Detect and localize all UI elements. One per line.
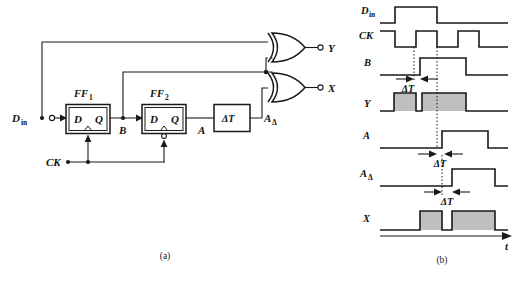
ff1-label-sub: 1 — [89, 93, 93, 102]
xor-gate-y-body — [272, 33, 305, 62]
node-a-label: A — [197, 124, 205, 136]
wave-label-b: B — [363, 57, 371, 68]
wave-label-adelta: A — [359, 168, 367, 179]
ff1-label: FF — [73, 88, 88, 99]
waveform-adelta — [380, 169, 508, 186]
ff2-clock-inverter-bubble-icon — [162, 134, 167, 139]
time-axis-label: t — [505, 241, 509, 252]
node-adelta-label: A — [263, 112, 271, 124]
waveform-x-shade-2 — [452, 211, 495, 230]
panel-b-caption: (b) — [436, 255, 447, 266]
waveform-din — [380, 7, 508, 23]
wave-label-din: D — [360, 5, 369, 16]
delta-marker-2: ΔT — [418, 151, 463, 169]
delta-marker-3-arrow-left — [434, 189, 442, 196]
delta-marker-1-label: ΔT — [401, 83, 415, 94]
xor-gate-y — [268, 33, 305, 62]
ff2-d-pin-label: D — [149, 113, 158, 125]
arrow-ck-ff2 — [161, 140, 168, 148]
delta-marker-1-arrow-left — [406, 76, 414, 83]
ff2-label-sub: 2 — [165, 93, 169, 102]
delta-marker-3: ΔT — [424, 189, 470, 207]
figure-svg: D Q FF 1 B D Q FF 2 — [0, 0, 526, 281]
xor-gate-x — [268, 73, 305, 102]
wave-label-a: A — [362, 130, 370, 141]
din-label-sub: in — [21, 118, 28, 127]
wave-label-din-sub: in — [369, 10, 376, 19]
wave-label-ck: CK — [359, 30, 374, 41]
wave-label-x: X — [362, 213, 371, 224]
waveform-a — [380, 131, 508, 148]
waveform-y-shade-1 — [394, 93, 416, 111]
wave-label-y: Y — [364, 98, 372, 109]
wave-label-adelta-sub: Δ — [368, 173, 373, 182]
figure-root: D Q FF 1 B D Q FF 2 — [0, 0, 526, 281]
time-axis-arrow-icon — [502, 232, 512, 240]
node-b-label: B — [118, 124, 126, 136]
waveform-y-shade-2 — [422, 93, 466, 111]
ff1-d-pin-label: D — [73, 113, 82, 125]
din-terminal-icon — [49, 115, 54, 120]
waveform-ck — [380, 31, 508, 47]
ff2-q-pin-label: Q — [171, 113, 179, 125]
panel-a-caption: (a) — [160, 251, 171, 262]
circuit-panel: D Q FF 1 B D Q FF 2 — [11, 33, 336, 262]
ff2-label: FF — [149, 88, 164, 99]
delta-marker-2-label: ΔT — [433, 158, 447, 169]
xor-gate-y-arc — [268, 33, 274, 62]
clock-label: CK — [46, 156, 61, 168]
timing-panel: D in CK B Y A A Δ X — [359, 5, 512, 266]
waveform-b — [380, 58, 508, 75]
output-x-label: X — [327, 82, 336, 94]
ff1-q-pin-label: Q — [95, 113, 103, 125]
delta-marker-3-arrow-right — [452, 189, 460, 196]
output-y-label: Y — [328, 42, 336, 54]
din-label: D — [11, 112, 20, 124]
xor-gate-x-body — [272, 73, 305, 102]
node-adelta-sub: Δ — [272, 118, 277, 127]
delta-marker-1: ΔT — [396, 76, 438, 94]
delta-marker-3-label: ΔT — [440, 196, 454, 207]
delta-marker-2-arrow-left — [429, 151, 437, 158]
delta-marker-2-arrow-right — [444, 151, 452, 158]
xor-gate-x-arc — [268, 73, 274, 102]
delta-marker-1-arrow-right — [420, 76, 428, 83]
waveform-x-shade-1 — [420, 211, 442, 230]
arrow-ck-ff1 — [85, 135, 92, 143]
output-x-terminal-icon — [318, 85, 323, 90]
delay-block-label: ΔT — [221, 113, 235, 124]
output-y-terminal-icon — [318, 45, 323, 50]
